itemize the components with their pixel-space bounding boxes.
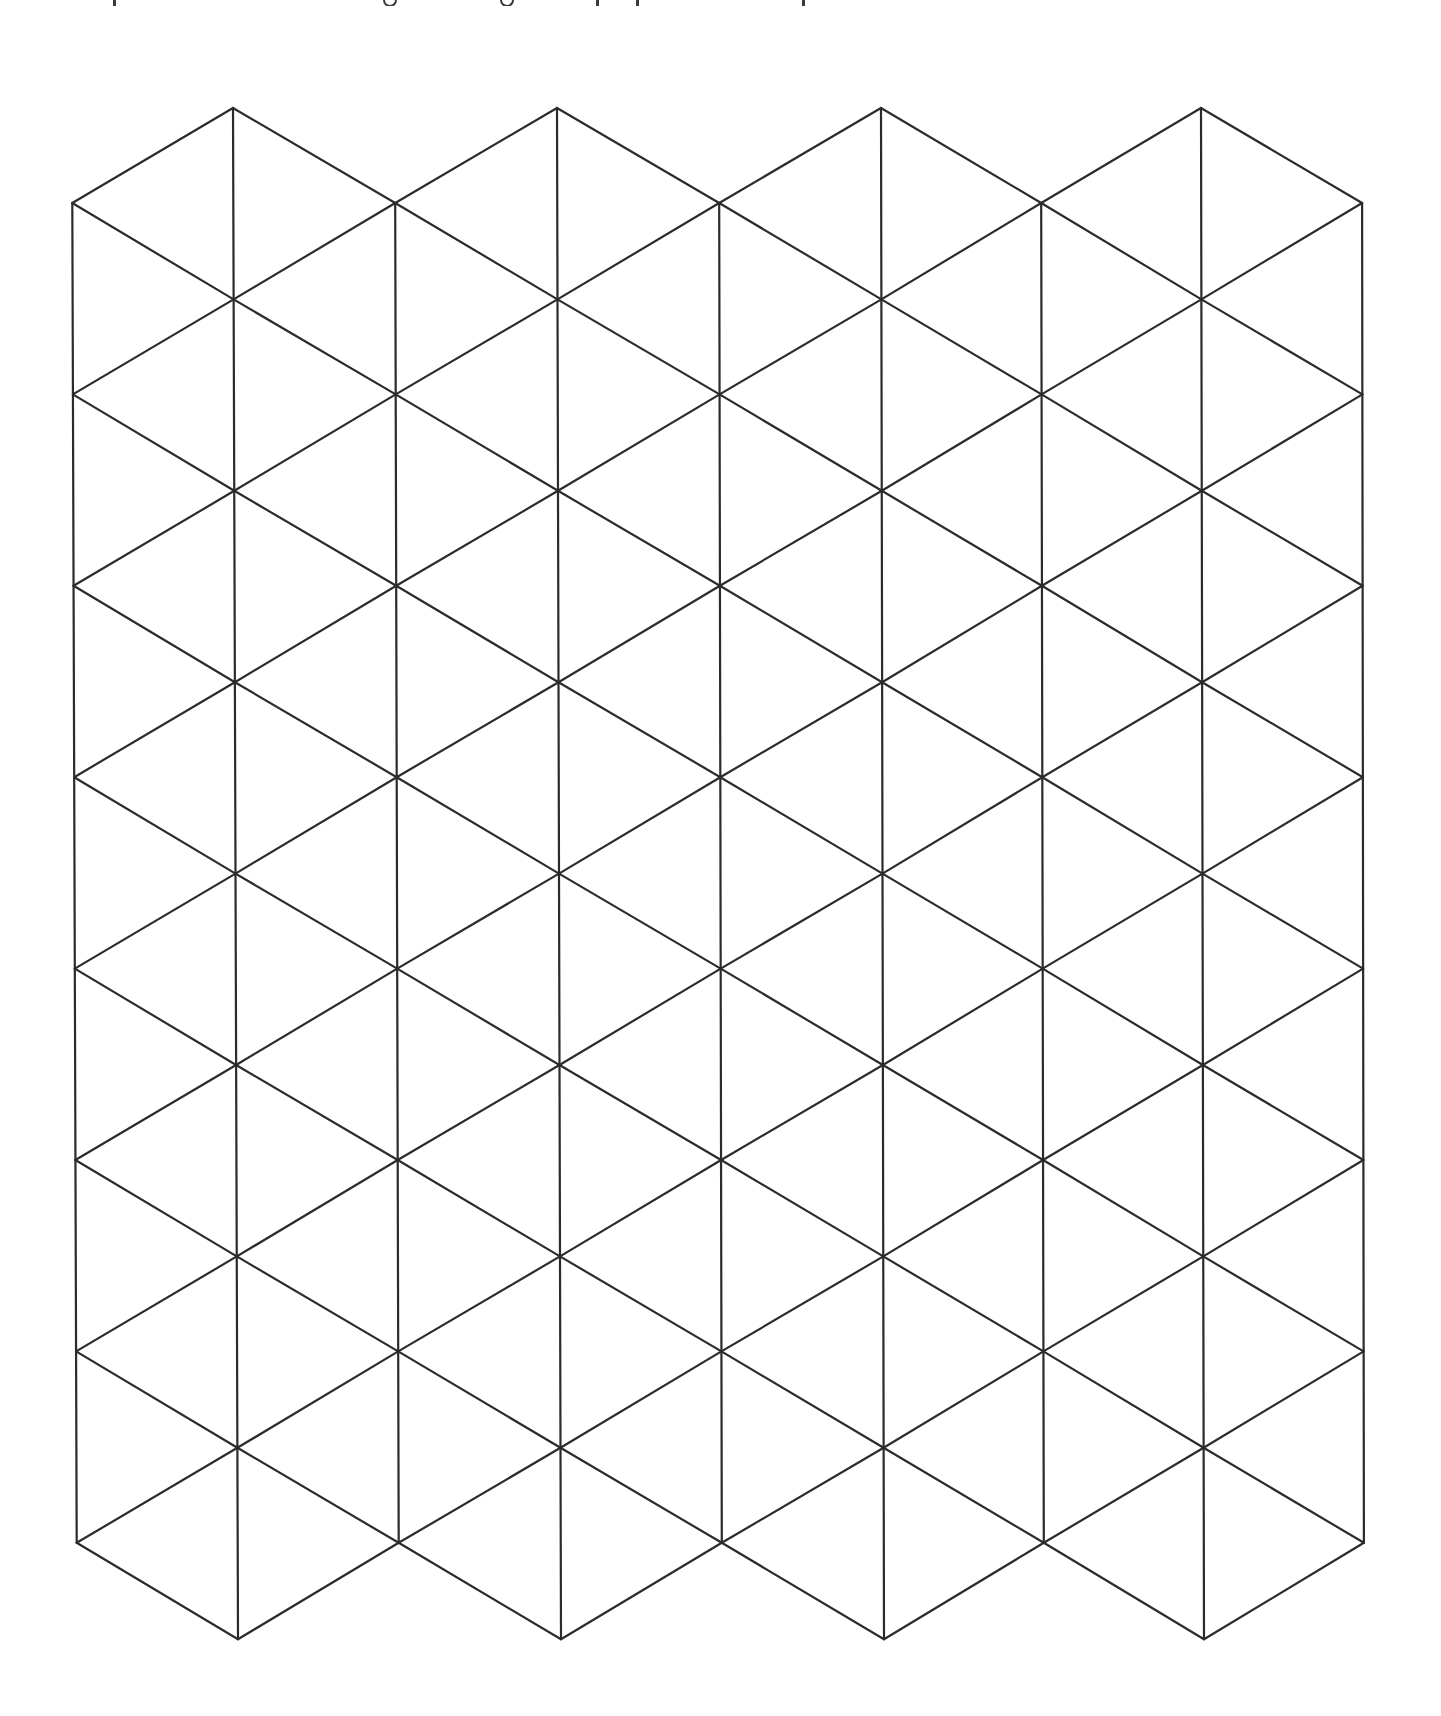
grid-diagonal-line — [76, 1256, 237, 1351]
grid-diagonal-line — [1204, 1351, 1364, 1447]
grid-diagonal-line — [237, 1256, 398, 1351]
grid-diagonal-line — [1203, 1065, 1364, 1160]
grid-diagonal-line — [75, 969, 236, 1065]
grid-diagonal-line — [235, 682, 397, 777]
grid-diagonal-line — [883, 1065, 1043, 1160]
grid-diagonal-line — [235, 586, 396, 682]
grid-diagonal-line — [1043, 1160, 1203, 1256]
grid-diagonal-line — [1043, 969, 1203, 1065]
grid-diagonal-line — [1042, 394, 1202, 490]
grid-diagonal-line — [1203, 969, 1363, 1065]
grid-diagonal-line — [1044, 1543, 1204, 1639]
grid-diagonal-line — [76, 1351, 237, 1447]
grid-diagonal-line — [1042, 682, 1202, 777]
grid-diagonal-line — [234, 203, 396, 299]
grid-diagonal-line — [397, 777, 559, 873]
grid-diagonal-line — [396, 491, 558, 586]
grid-diagonal-line — [722, 1543, 884, 1639]
grid-diagonal-line — [561, 1448, 722, 1543]
grid-diagonal-line — [884, 1351, 1044, 1447]
grid-diagonal-line — [237, 1160, 398, 1256]
grid-diagonal-line — [75, 1160, 236, 1256]
grid-diagonal-line — [721, 874, 883, 969]
grid-diagonal-line — [399, 1448, 561, 1543]
grid-diagonal-line — [236, 1065, 398, 1160]
grid-diagonal-line — [559, 874, 721, 969]
grid-diagonal-line — [559, 777, 720, 873]
grid-diagonal-line — [74, 777, 235, 873]
grid-diagonal-line — [883, 777, 1043, 873]
grid-diagonal-line — [1202, 394, 1363, 490]
grid-diagonal-line — [557, 108, 719, 203]
grid-diagonal-line — [560, 969, 721, 1065]
grid-diagonal-line — [1202, 586, 1363, 682]
grid-diagonal-line — [1043, 1351, 1203, 1447]
grid-diagonal-line — [1203, 777, 1363, 873]
grid-diagonal-line — [1042, 586, 1202, 682]
grid-diagonal-line — [882, 394, 1042, 490]
grid-diagonal-line — [1202, 491, 1363, 586]
grid-diagonal-line — [561, 1351, 722, 1447]
grid-diagonal-line — [1043, 1256, 1203, 1351]
grid-diagonal-line — [881, 299, 1041, 394]
grid-diagonal-line — [1203, 1256, 1363, 1351]
grid-diagonal-line — [560, 1065, 722, 1160]
grid-diagonal-line — [73, 299, 234, 394]
grid-diagonal-line — [397, 969, 559, 1065]
grid-diagonal-line — [881, 108, 1041, 203]
grid-diagonal-line — [721, 1351, 883, 1447]
grid-diagonal-line — [558, 491, 720, 586]
grid-diagonal-line — [399, 1543, 561, 1639]
grid-diagonal-line — [74, 682, 235, 777]
grid-diagonal-line — [721, 1065, 883, 1160]
grid-diagonal-line — [72, 203, 233, 299]
grid-diagonal-line — [398, 1065, 560, 1160]
grid-diagonal-line — [1203, 874, 1364, 969]
grid-diagonal-line — [1044, 1448, 1204, 1543]
grid-diagonal-line — [1202, 682, 1363, 777]
grid-diagonal-line — [72, 108, 233, 203]
grid-vertical-edge-line — [395, 203, 399, 1543]
grid-vertical-edge-line — [1041, 203, 1044, 1543]
grid-diagonal-line — [719, 203, 881, 299]
isometric-triangle-grid — [0, 0, 1441, 1716]
grid-diagonal-line — [1041, 203, 1201, 299]
grid-diagonal-line — [720, 586, 882, 682]
grid-diagonal-line — [236, 969, 397, 1065]
grid-diagonal-line — [1204, 1543, 1364, 1639]
grid-diagonal-line — [396, 299, 558, 394]
grid-diagonal-line — [882, 586, 1042, 682]
grid-diagonal-line — [1201, 108, 1362, 203]
grid-diagonal-line — [882, 682, 1042, 777]
grid-diagonal-line — [722, 1448, 884, 1543]
grid-diagonal-line — [560, 1160, 721, 1256]
grid-diagonal-line — [75, 1065, 236, 1160]
grid-diagonal-line — [75, 874, 236, 969]
grid-diagonal-line — [77, 1448, 238, 1543]
grid-diagonal-line — [1204, 1448, 1364, 1543]
grid-diagonal-line — [560, 1256, 721, 1351]
grid-vertical-edge-line — [1362, 203, 1364, 1543]
grid-diagonal-line — [883, 874, 1043, 969]
grid-diagonal-line — [234, 299, 396, 394]
grid-diagonal-line — [558, 203, 720, 299]
grid-diagonal-line — [397, 682, 559, 777]
grid-diagonal-line — [721, 1160, 883, 1256]
grid-diagonal-line — [720, 682, 882, 777]
grid-lines — [72, 108, 1364, 1639]
grid-diagonal-line — [1042, 491, 1202, 586]
grid-diagonal-line — [559, 586, 720, 682]
grid-diagonal-line — [721, 969, 883, 1065]
grid-diagonal-line — [1042, 299, 1202, 394]
grid-diagonal-line — [236, 777, 397, 873]
grid-diagonal-line — [883, 969, 1043, 1065]
grid-diagonal-line — [720, 299, 882, 394]
grid-diagonal-line — [883, 1160, 1043, 1256]
grid-diagonal-line — [396, 586, 558, 682]
grid-vertical-edge-line — [72, 203, 76, 1543]
grid-diagonal-line — [558, 299, 720, 394]
grid-diagonal-line — [77, 1543, 238, 1639]
grid-diagonal-line — [883, 1256, 1043, 1351]
grid-diagonal-line — [561, 1543, 722, 1639]
grid-diagonal-line — [396, 394, 558, 490]
